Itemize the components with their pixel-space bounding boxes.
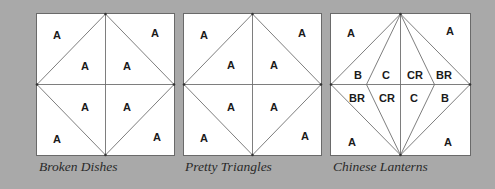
piece-label: B (441, 93, 449, 104)
piece-label: A (347, 28, 355, 39)
piece-label: A (446, 26, 454, 37)
piece-label: A (53, 30, 61, 41)
quilt-block-pretty-triangles: A A A A A A A A (183, 13, 322, 156)
piece-label: BR (436, 70, 452, 81)
caption-broken-dishes: Broken Dishes (39, 159, 118, 175)
piece-label: A (123, 102, 131, 113)
piece-label: A (348, 137, 356, 148)
piece-label: A (123, 61, 131, 72)
caption-pretty-triangles: Pretty Triangles (185, 159, 272, 175)
piece-label: C (410, 93, 418, 104)
piece-label: BR (349, 93, 365, 104)
piece-label: A (270, 102, 278, 113)
piece-label: A (227, 102, 235, 113)
piece-label: C (382, 70, 390, 81)
piece-label: A (298, 28, 306, 39)
piece-label: A (151, 28, 159, 39)
quilt-block-chinese-lanterns: A A B C CR BR BR CR C B A A (330, 13, 471, 156)
piece-label: A (227, 60, 235, 71)
piece-label: B (354, 70, 362, 81)
piece-label: CR (407, 70, 423, 81)
piece-label: A (270, 60, 278, 71)
piece-label: A (200, 133, 208, 144)
piece-label: A (81, 61, 89, 72)
piece-label: A (301, 131, 309, 142)
piece-label: A (153, 132, 161, 143)
quilt-block-broken-dishes: A A A A A A A A (36, 13, 175, 156)
piece-label: A (81, 102, 89, 113)
piece-label: A (200, 30, 208, 41)
piece-label: CR (379, 93, 395, 104)
piece-label: A (53, 134, 61, 145)
piece-label: A (444, 137, 452, 148)
caption-chinese-lanterns: Chinese Lanterns (333, 159, 428, 175)
